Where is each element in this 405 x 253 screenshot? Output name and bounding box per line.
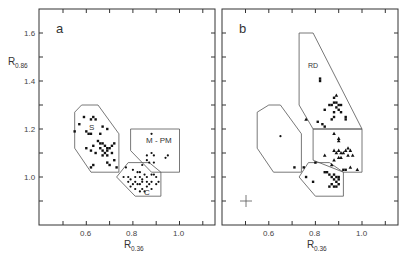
data-point-square (319, 80, 321, 82)
data-point-square (94, 118, 96, 120)
data-points (73, 77, 359, 192)
data-point-square (321, 123, 323, 125)
x-tick-label: 1.0 (356, 229, 368, 238)
data-point-square (344, 116, 346, 118)
data-point-square (333, 178, 335, 180)
data-point-square (324, 171, 326, 173)
data-point-square (99, 147, 101, 149)
data-point-dot (136, 183, 138, 185)
data-point-square (342, 169, 344, 171)
data-point-dot (141, 188, 143, 190)
data-point-square (333, 111, 335, 113)
data-point-dot (134, 188, 136, 190)
data-point-square (101, 149, 103, 151)
data-point-square (303, 166, 305, 168)
data-point-square (106, 154, 108, 156)
data-point-triangle (339, 156, 343, 159)
data-point-square (338, 176, 340, 178)
data-point-dot (127, 176, 129, 178)
data-point-square (92, 116, 94, 118)
crosshair-error-bar-icon (240, 195, 252, 207)
data-point-square (324, 109, 326, 111)
data-point-square (101, 154, 103, 156)
figure: a b S M - PM C RD 1.6 1.4 1.2 1.0 R 0.86… (0, 0, 405, 253)
data-point-dot (164, 157, 166, 159)
data-point-square (335, 181, 337, 183)
data-point-square (94, 152, 96, 154)
data-point-dot (153, 154, 155, 156)
data-point-square (335, 106, 337, 108)
data-point-square (87, 133, 89, 135)
x-tick-label: 0.8 (126, 229, 138, 238)
data-point-triangle (356, 168, 360, 171)
data-point-triangle (323, 153, 327, 156)
data-point-square (113, 142, 115, 144)
data-point-square (333, 173, 335, 175)
data-point-dot (167, 154, 169, 156)
data-point-triangle (335, 93, 339, 96)
region-polygon-s (75, 105, 119, 172)
region-label-rd: RD (308, 62, 318, 69)
data-point-square (328, 185, 330, 187)
data-point-square (90, 118, 92, 120)
data-point-dot (139, 176, 141, 178)
data-point-dot (132, 169, 134, 171)
data-point-dot (129, 186, 131, 188)
region-polygon-c (117, 163, 161, 197)
data-point-square (344, 169, 346, 171)
data-point-triangle (332, 149, 336, 152)
data-point-dot (129, 178, 131, 180)
data-point-triangle (337, 149, 341, 152)
data-point-square (106, 128, 108, 130)
data-point-dot (136, 171, 138, 173)
data-point-square (104, 152, 106, 154)
region-label-m-pm: M - PM (146, 136, 172, 145)
data-point-dot (139, 190, 141, 192)
data-point-triangle (332, 132, 336, 135)
data-point-square (328, 104, 330, 106)
data-point-square (111, 145, 113, 147)
data-point-square (106, 149, 108, 151)
data-point-square (97, 140, 99, 142)
data-point-square (305, 176, 307, 178)
data-point-square (328, 173, 330, 175)
data-point-square (92, 145, 94, 147)
data-point-square (335, 185, 337, 187)
data-point-square (314, 161, 316, 163)
data-point-dot (141, 164, 143, 166)
scatter-figure: a b S M - PM C RD 1.6 1.4 1.2 1.0 R 0.86… (0, 0, 405, 253)
data-point-triangle (346, 153, 350, 156)
data-point-square (331, 104, 333, 106)
data-point-square (331, 176, 333, 178)
data-point-square (319, 77, 321, 79)
data-point-square (92, 164, 94, 166)
data-point-dot (141, 178, 143, 180)
data-point-dot (150, 174, 152, 176)
data-point-square (90, 133, 92, 135)
x-tick-label: 0.6 (80, 229, 92, 238)
data-point-square (344, 118, 346, 120)
data-point-dot (157, 181, 159, 183)
data-point-square (83, 116, 85, 118)
region-label-s: S (89, 123, 94, 132)
data-point-triangle (349, 165, 353, 168)
panel-b-frame (222, 9, 398, 225)
x-axis-label-sub-a: 0.36 (131, 245, 144, 252)
data-point-square (335, 101, 337, 103)
data-point-square (340, 104, 342, 106)
data-point-square (333, 116, 335, 118)
x-tick-label: 1.0 (173, 229, 185, 238)
data-point-dot (148, 183, 150, 185)
data-point-square (338, 178, 340, 180)
data-point-square (324, 125, 326, 127)
data-point-square (85, 130, 87, 132)
data-point-square (115, 166, 117, 168)
data-point-triangle (332, 158, 336, 161)
data-point-square (106, 147, 108, 149)
data-point-square (338, 104, 340, 106)
data-point-square (104, 145, 106, 147)
data-point-dot (139, 183, 141, 185)
data-point-square (78, 123, 80, 125)
data-point-triangle (351, 153, 355, 156)
data-point-dot (127, 181, 129, 183)
